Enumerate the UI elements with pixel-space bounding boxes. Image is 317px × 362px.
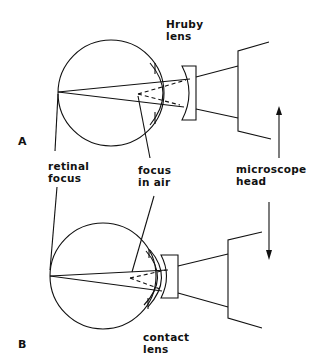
retinal-focus-line2: focus bbox=[48, 172, 89, 184]
hruby-lens bbox=[182, 66, 196, 120]
microscope-a-beam-bottom bbox=[196, 109, 238, 118]
eye-a-ray-upper bbox=[58, 79, 190, 92]
microscope-head-label: microscope head bbox=[236, 163, 306, 187]
eye-a-ray-lower bbox=[58, 92, 184, 107]
contact-lens-label-line2: lens bbox=[143, 343, 189, 355]
panel-a-diagram bbox=[58, 40, 271, 146]
hruby-lens-label: Hruby lens bbox=[166, 18, 203, 42]
panel-label-b: B bbox=[18, 338, 26, 351]
eye-a-cornea bbox=[150, 63, 163, 125]
microscope-b-beam-bottom bbox=[178, 293, 228, 307]
contact-lens-label-line1: contact bbox=[143, 331, 189, 343]
contact-lens-label: contact lens bbox=[143, 331, 189, 355]
focus-in-air-label: focus in air bbox=[138, 164, 171, 188]
panel-b-diagram bbox=[50, 223, 262, 329]
hruby-lens-label-line1: Hruby bbox=[166, 18, 203, 30]
contact-lens bbox=[161, 255, 178, 298]
retinal-focus-line1: retinal bbox=[48, 160, 89, 172]
eye-a-globe bbox=[58, 40, 164, 146]
focus-in-air-line1: focus bbox=[138, 164, 171, 176]
leader-retinal-focus-a bbox=[55, 94, 58, 151]
retinal-focus-label: retinal focus bbox=[48, 160, 89, 184]
microscope-b-beam-top bbox=[178, 254, 228, 266]
eye-b-ray-upper bbox=[50, 270, 168, 276]
panel-label-a: A bbox=[18, 135, 27, 148]
microscope-head-line1: microscope bbox=[236, 163, 306, 175]
focus-in-air-line2: in air bbox=[138, 176, 171, 188]
arrow-up-icon bbox=[276, 106, 282, 158]
microscope-a-beam-top bbox=[196, 66, 238, 77]
eye-a-dashed-lower bbox=[138, 94, 180, 105]
hruby-lens-label-line2: lens bbox=[166, 30, 203, 42]
leader-focus-in-air-a bbox=[138, 96, 150, 158]
microscope-b-head bbox=[228, 232, 262, 328]
arrow-down-icon bbox=[266, 202, 272, 260]
microscope-head-line2: head bbox=[236, 175, 306, 187]
microscope-a-head bbox=[238, 42, 271, 139]
